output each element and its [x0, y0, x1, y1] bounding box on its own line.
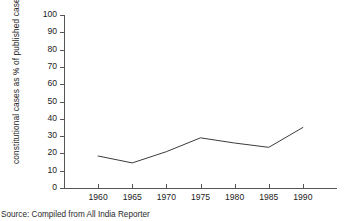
source-caption: Source: Compiled from All India Reporter — [1, 210, 150, 220]
y-axis-title: constitutional cases as % of published c… — [9, 0, 23, 174]
y-tick-label: 70 — [47, 61, 57, 72]
x-axis-line — [64, 188, 337, 189]
y-tick-label: 20 — [47, 147, 57, 158]
y-tick-label: 0 — [52, 182, 57, 193]
y-tick-label: 40 — [47, 113, 57, 124]
series-polyline — [98, 127, 303, 162]
y-tick-label: 100 — [43, 9, 57, 20]
y-tick-label: 10 — [47, 165, 57, 176]
x-tick-label: 1990 — [283, 192, 323, 203]
plot-area: 0102030405060708090100 19601965197019751… — [64, 15, 337, 188]
y-tick: 0 — [60, 188, 64, 189]
y-tick-label: 50 — [47, 96, 57, 107]
y-tick-label: 90 — [47, 26, 57, 37]
y-tick-label: 80 — [47, 44, 57, 55]
y-tick-label: 60 — [47, 78, 57, 89]
y-axis-title-text: constitutional cases as % of published c… — [11, 0, 21, 164]
y-tick-label: 30 — [47, 130, 57, 141]
data-series-line — [64, 15, 337, 188]
chart-figure: constitutional cases as % of published c… — [0, 0, 358, 221]
